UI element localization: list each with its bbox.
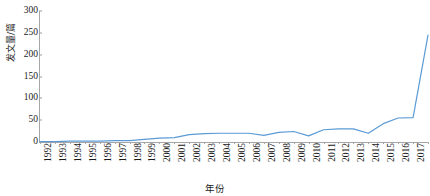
x-axis-tick-label: 2000 [163,143,173,162]
x-axis-tick-label: 2008 [283,143,293,162]
x-axis-tick-mark [189,142,190,144]
x-axis-tick-label: 2011 [328,143,338,162]
x-axis-tick-mark [353,142,354,144]
y-axis-tick-label: 0 [14,137,38,147]
x-axis-tick-mark [338,142,339,144]
x-axis-tick-label: 2017 [417,143,427,162]
x-axis-tick-mark [55,142,56,144]
x-axis-tick-label: 2005 [238,143,248,162]
x-axis-tick-label: 1992 [44,143,54,162]
x-axis-tick-label: 2016 [402,143,412,162]
series-line-fawenliang [40,35,428,142]
y-axis-tick-labels: 050100150200250300 [14,0,38,196]
x-axis-tick-label: 2010 [313,143,323,162]
x-axis-tick-mark [174,142,175,144]
x-axis-tick-mark [130,142,131,144]
x-axis-tick-label: 2007 [268,143,278,162]
y-axis-tick-label: 100 [14,94,38,104]
line-chart-figure: 发文量/篇 050100150200250300 199219931994199… [0,0,430,196]
data-series-svg [40,11,428,142]
x-axis-tick-mark [294,142,295,144]
x-axis-tick-label: 1996 [104,143,114,162]
x-axis-tick-mark [324,142,325,144]
x-axis-tick-label: 2012 [342,143,352,162]
x-axis-tick-mark [219,142,220,144]
x-axis-tick-mark [383,142,384,144]
x-axis-tick-mark [115,142,116,144]
x-axis-tick-label: 2004 [223,143,233,162]
x-axis-tick-mark [368,142,369,144]
x-axis-tick-label: 2002 [193,143,203,162]
y-axis-tick-label: 50 [14,115,38,125]
x-axis-tick-mark [428,142,429,144]
y-axis-tick-label: 200 [14,50,38,60]
x-axis-tick-label: 1998 [134,143,144,162]
x-axis-tick-mark [159,142,160,144]
x-axis-tick-mark [279,142,280,144]
y-axis-tick-label: 300 [14,6,38,16]
x-axis-tick-mark [85,142,86,144]
x-axis-tick-label: 1994 [74,143,84,162]
x-axis-tick-label: 2014 [372,143,382,162]
x-axis-tick-label: 1995 [89,143,99,162]
x-axis-tick-mark [204,142,205,144]
x-axis-tick-mark [144,142,145,144]
x-axis-tick-label: 2003 [208,143,218,162]
x-axis-tick-mark [40,142,41,144]
x-axis-tick-label: 2013 [357,143,367,162]
x-axis-tick-label: 1997 [119,143,129,162]
x-axis-tick-label: 2006 [253,143,263,162]
y-axis-tick-label: 250 [14,28,38,38]
x-axis-tick-mark [413,142,414,144]
x-axis-tick-mark [100,142,101,144]
x-axis-tick-label: 2015 [387,143,397,162]
x-axis-tick-labels: 1992199319941995199619971998199920002001… [40,143,428,183]
x-axis-tick-mark [70,142,71,144]
plot-area [40,11,428,142]
x-axis-tick-mark [234,142,235,144]
y-axis-tick-label: 150 [14,72,38,82]
x-axis-tick-mark [309,142,310,144]
x-axis-tick-label: 1993 [59,143,69,162]
x-axis-tick-mark [398,142,399,144]
x-axis-tick-mark [264,142,265,144]
x-axis-title: 年份 [0,181,430,195]
x-axis-tick-label: 1999 [148,143,158,162]
x-axis-tick-label: 2009 [298,143,308,162]
x-axis-tick-mark [249,142,250,144]
x-axis-tick-label: 2001 [178,143,188,162]
